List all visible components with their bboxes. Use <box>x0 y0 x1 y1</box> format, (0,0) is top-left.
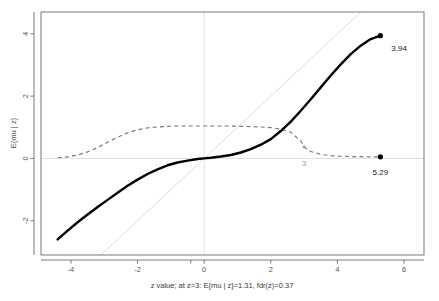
x-axis-title: z value; at z=3: E{mu | z}=1.31, fdr(z)=… <box>151 281 294 290</box>
x-tick-labels: -4 -2 0 2 4 6 <box>68 265 406 274</box>
series-group <box>58 36 381 240</box>
fdr-curve-dashed <box>58 126 381 158</box>
y-axis-title: E{mu | z} <box>9 117 18 148</box>
fdr-at-z3-marker <box>303 145 306 148</box>
chart-container: -4 -2 0 2 4 6 -2 0 2 4 E{mu | z} z value… <box>0 0 439 301</box>
x-tick-label-4: 4 <box>335 265 339 274</box>
y-axis <box>30 12 34 255</box>
x-axis <box>41 260 424 264</box>
fdr-endpoint-marker <box>378 154 383 159</box>
y-tick-label-2: 2 <box>22 94 31 98</box>
x-tick-label-2: 0 <box>202 265 206 274</box>
fdr-endpoint-label: 5.29 <box>373 168 389 177</box>
x-tick-label-1: -2 <box>134 265 141 274</box>
y-tick-labels: -2 0 2 4 <box>22 32 31 224</box>
efron-empirical-bayes-plot: -4 -2 0 2 4 6 -2 0 2 4 E{mu | z} z value… <box>0 0 439 301</box>
y-tick-label-3: 4 <box>22 32 31 36</box>
plot-frame <box>41 12 424 255</box>
emu-endpoint-label: 3.94 <box>391 44 407 53</box>
emu-endpoint-marker <box>378 33 383 38</box>
emu-curve-solid <box>58 36 381 240</box>
z-query-label: 3 <box>302 159 307 168</box>
y-tick-label-0: -2 <box>22 217 31 224</box>
x-tick-label-0: -4 <box>68 265 75 274</box>
x-tick-label-3: 2 <box>269 265 273 274</box>
reference-lines <box>41 12 424 255</box>
y-tick-label-1: 0 <box>22 156 31 160</box>
x-tick-label-5: 6 <box>402 265 406 274</box>
identity-diagonal-line <box>101 12 361 255</box>
